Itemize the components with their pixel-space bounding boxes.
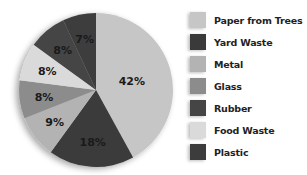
legend-item-food-waste: Food Waste xyxy=(190,119,307,141)
legend-label: Glass xyxy=(214,81,242,92)
slice-value-label: 18% xyxy=(80,136,106,149)
legend-label: Paper from Trees xyxy=(214,15,302,26)
legend-label: Yard Waste xyxy=(214,37,272,48)
legend-swatch xyxy=(190,100,206,116)
legend-label: Rubber xyxy=(214,103,252,114)
legend-label: Metal xyxy=(214,59,243,70)
slice-value-label: 8% xyxy=(53,44,72,57)
legend-item-rubber: Rubber xyxy=(190,97,307,119)
legend-item-plastic: Plastic xyxy=(190,141,307,163)
legend-swatch xyxy=(190,34,206,50)
slice-value-label: 9% xyxy=(45,116,64,129)
legend-label: Food Waste xyxy=(214,125,274,136)
legend-item-metal: Metal xyxy=(190,53,307,75)
chart-legend: Paper from Trees Yard Waste Metal Glass … xyxy=(190,9,307,163)
slice-value-label: 8% xyxy=(35,91,54,104)
slice-value-label: 42% xyxy=(119,75,145,88)
pie-chart-canvas: 42%18%9%8%8%8%7% xyxy=(0,0,190,175)
slice-value-label: 7% xyxy=(75,33,94,46)
slice-value-label: 8% xyxy=(38,65,57,78)
legend-item-glass: Glass xyxy=(190,75,307,97)
legend-item-paper-from-trees: Paper from Trees xyxy=(190,9,307,31)
pie-chart: 42%18%9%8%8%8%7% xyxy=(0,0,190,175)
legend-swatch xyxy=(190,56,206,72)
legend-swatch xyxy=(190,78,206,94)
legend-label: Plastic xyxy=(214,147,248,158)
legend-swatch xyxy=(190,122,206,138)
legend-swatch xyxy=(190,144,206,160)
legend-item-yard-waste: Yard Waste xyxy=(190,31,307,53)
legend-swatch xyxy=(190,12,206,28)
